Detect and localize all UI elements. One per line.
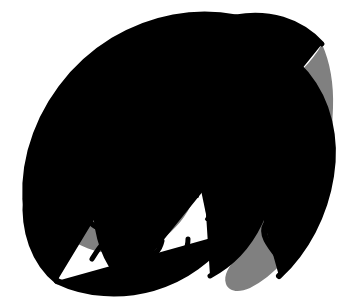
- illustration-canvas: Cross-section of a chambered nautilus sh…: [0, 0, 341, 304]
- nautilus-shell-illustration: [0, 0, 341, 304]
